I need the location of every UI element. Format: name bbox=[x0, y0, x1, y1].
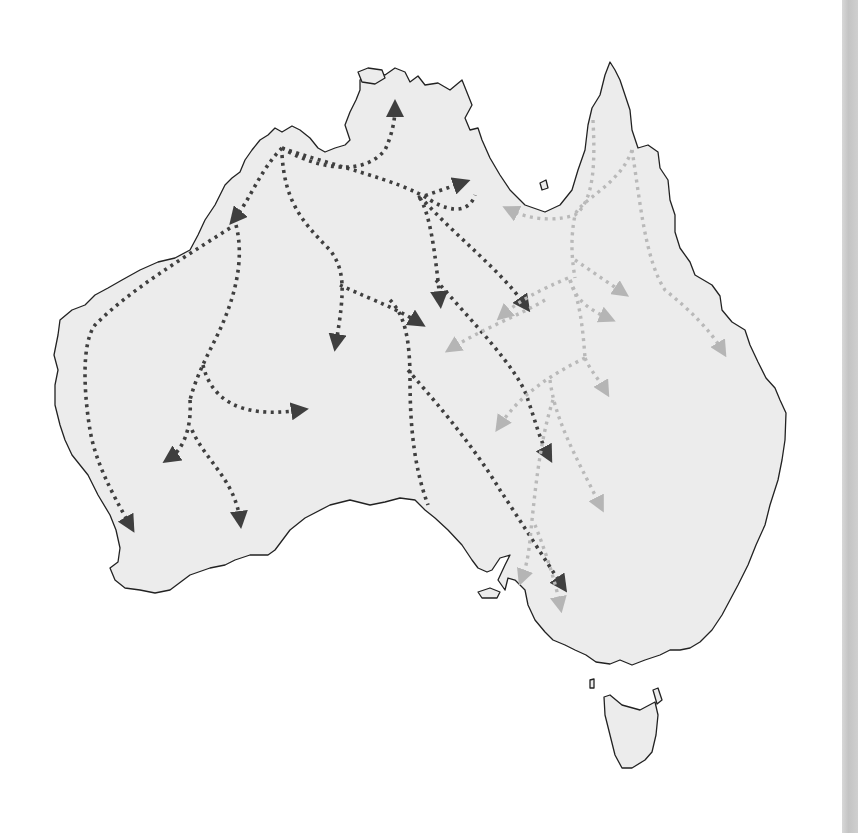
kangaroo-island bbox=[478, 588, 500, 598]
flinders-island bbox=[653, 688, 662, 704]
tasmania bbox=[604, 695, 658, 768]
king-island bbox=[590, 679, 594, 688]
mainland-australia bbox=[54, 62, 786, 665]
page-edge-shadow bbox=[842, 0, 858, 833]
map-canvas: Australia bbox=[0, 0, 858, 833]
groote-eylandt bbox=[540, 180, 548, 190]
